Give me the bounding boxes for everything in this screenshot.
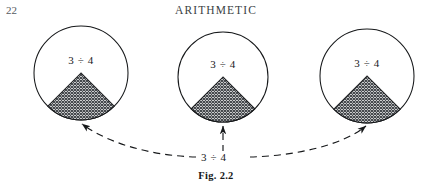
circle-label-right: 3 ÷ 4 bbox=[343, 57, 391, 69]
dashed-arc-right bbox=[250, 126, 366, 157]
dashed-arc-left bbox=[82, 124, 196, 157]
circle-label-middle: 3 ÷ 4 bbox=[199, 58, 247, 70]
pie-diagram-middle bbox=[178, 32, 268, 122]
pie-diagram-left bbox=[34, 26, 128, 120]
circle-label-left: 3 ÷ 4 bbox=[57, 54, 105, 66]
figure-container: 22 ARITHMETIC bbox=[0, 0, 432, 190]
arc-label: 3 ÷ 4 bbox=[199, 151, 229, 163]
figure-caption: Fig. 2.2 bbox=[0, 170, 432, 181]
pie-diagram-right bbox=[320, 29, 414, 123]
